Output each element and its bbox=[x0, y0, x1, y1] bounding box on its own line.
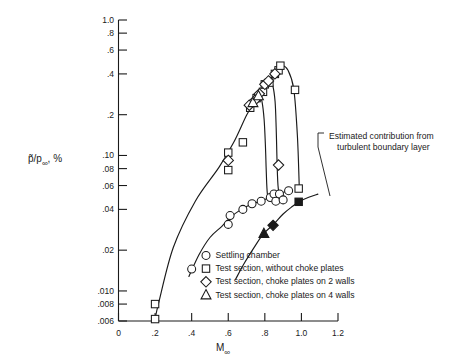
annotation-line-1: Estimated contribution from bbox=[329, 131, 434, 141]
chart-figure: 1.0.8.6.4.2.10.08.06.04.02.010.008.006 p… bbox=[0, 0, 475, 364]
x-title-subscript: ∞ bbox=[224, 348, 230, 357]
y-tick-label-.006: .006 bbox=[97, 316, 114, 326]
legend-symbol-square bbox=[202, 265, 209, 272]
x-axis-title-text: M∞ bbox=[216, 342, 230, 357]
y-axis-title: p̃/p∞, % bbox=[28, 153, 62, 168]
data-point-s0-0 bbox=[188, 265, 196, 273]
annotation-tbl: Estimated contribution from turbulent bo… bbox=[318, 131, 434, 196]
data-point-s1-1 bbox=[151, 315, 158, 322]
y-tick-label-.04: .04 bbox=[102, 204, 114, 214]
y-tick-label-.08: .08 bbox=[102, 164, 114, 174]
data-point-s0-1 bbox=[224, 220, 232, 228]
x-axis-title: M∞ bbox=[216, 342, 230, 357]
legend-label-0: Settling chamber bbox=[216, 250, 281, 260]
y-tick-label-.06: .06 bbox=[102, 181, 114, 191]
data-point-s0-4 bbox=[248, 200, 256, 208]
x-tick-label-.8: .8 bbox=[261, 328, 268, 338]
y-title-ptilde: p̃/p bbox=[28, 153, 42, 164]
data-point-s0-10 bbox=[272, 197, 280, 205]
data-point-s0-5 bbox=[257, 197, 265, 205]
y-tick-label-.010: .010 bbox=[97, 286, 114, 296]
legend-label-1: Test section, without choke plates bbox=[216, 263, 344, 273]
y-axis: 1.0.8.6.4.2.10.08.06.04.02.010.008.006 bbox=[97, 15, 127, 326]
x-tick-label-.2: .2 bbox=[152, 328, 159, 338]
y-tick-label-.2: .2 bbox=[107, 110, 114, 120]
data-point-s0-3 bbox=[239, 205, 247, 213]
y-tick-label-.02: .02 bbox=[102, 245, 114, 255]
y-axis-ticks bbox=[119, 20, 128, 321]
x-tick-label-.6: .6 bbox=[225, 328, 232, 338]
data-point-s1-14 bbox=[295, 185, 302, 192]
y-title-percent: , % bbox=[48, 153, 63, 164]
data-point-s1-0 bbox=[151, 300, 158, 307]
pressure-fluctuation-chart: 1.0.8.6.4.2.10.08.06.04.02.010.008.006 p… bbox=[0, 0, 475, 364]
y-tick-label-.6: .6 bbox=[107, 45, 114, 55]
curve-choke-4-walls-descent bbox=[259, 93, 268, 197]
data-point-s1-4 bbox=[239, 139, 246, 146]
x-tick-label-.4: .4 bbox=[188, 328, 195, 338]
data-point-s0-9 bbox=[285, 187, 293, 195]
y-tick-label-.4: .4 bbox=[107, 69, 114, 79]
x-tick-label-1.0: 1.0 bbox=[296, 328, 308, 338]
chart-legend: Settling chamberTest section, without ch… bbox=[201, 250, 355, 300]
y-tick-label-1.0: 1.0 bbox=[102, 15, 114, 25]
x-title-m: M bbox=[216, 342, 224, 353]
data-point-s1-3 bbox=[225, 166, 232, 173]
legend-symbol-triangle bbox=[201, 290, 211, 299]
data-point-s2-7 bbox=[273, 160, 283, 170]
x-axis-tick-labels: 0.2.4.6.81.01.2 bbox=[116, 328, 344, 338]
curve-choke-2-walls-descent bbox=[269, 79, 279, 193]
legend-symbol-circle bbox=[202, 251, 210, 259]
data-point-s0-11 bbox=[279, 196, 287, 204]
data-point-s1-12 bbox=[277, 62, 284, 69]
legend-label-2: Test section, choke plates on 2 walls bbox=[216, 276, 355, 286]
x-axis: 0.2.4.6.81.01.2 bbox=[116, 313, 344, 338]
y-tick-label-.008: .008 bbox=[97, 299, 114, 309]
y-tick-label-.10: .10 bbox=[102, 150, 114, 160]
x-tick-label-0: 0 bbox=[116, 328, 121, 338]
y-axis-tick-labels: 1.0.8.6.4.2.10.08.06.04.02.010.008.006 bbox=[97, 15, 114, 326]
data-point-s4-2 bbox=[295, 198, 302, 205]
data-point-s0-2 bbox=[226, 212, 234, 220]
data-point-s1-13 bbox=[291, 86, 298, 93]
x-tick-label-1.2: 1.2 bbox=[332, 328, 344, 338]
y-axis-title-text: p̃/p∞, % bbox=[28, 153, 62, 168]
legend-label-3: Test section, choke plates on 4 walls bbox=[216, 290, 355, 300]
legend-symbol-diamond bbox=[201, 277, 211, 287]
y-tick-label-.8: .8 bbox=[107, 28, 114, 38]
annotation-leader-line bbox=[318, 133, 330, 196]
annotation-line-2: turbulent boundary layer bbox=[337, 142, 430, 152]
